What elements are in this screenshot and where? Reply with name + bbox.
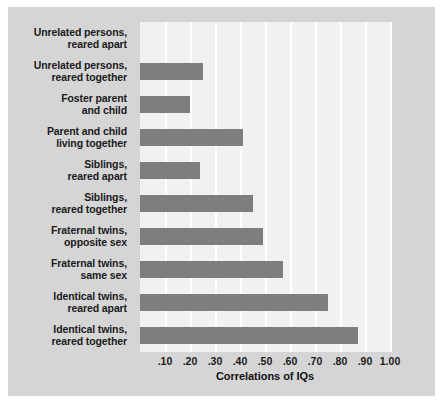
bar-row bbox=[140, 253, 390, 286]
category-label-line: reared together bbox=[51, 72, 127, 84]
category-label-line: Unrelated persons, bbox=[34, 60, 127, 72]
category-label: Fraternal twins,same sex bbox=[8, 253, 133, 286]
category-label-line: opposite sex bbox=[64, 237, 127, 249]
bar bbox=[140, 195, 253, 212]
category-label-line: Identical twins, bbox=[53, 291, 127, 303]
chart-figure: Unrelated persons,reared apartUnrelated … bbox=[8, 7, 435, 396]
bar bbox=[140, 294, 328, 311]
category-label-line: Unrelated persons, bbox=[34, 27, 127, 39]
bar bbox=[140, 63, 203, 80]
x-tick-label: 1.00 bbox=[380, 355, 400, 367]
category-label-line: Fraternal twins, bbox=[51, 258, 127, 270]
category-label: Identical twins,reared apart bbox=[8, 286, 133, 319]
x-tick-label: .90 bbox=[358, 355, 373, 367]
bar bbox=[140, 327, 358, 344]
x-tick-label: .60 bbox=[283, 355, 298, 367]
category-label-line: reared apart bbox=[68, 303, 128, 315]
category-label: Parent and childliving together bbox=[8, 121, 133, 154]
bar-row bbox=[140, 187, 390, 220]
category-label: Siblings,reared together bbox=[8, 187, 133, 220]
x-tick-label: .40 bbox=[233, 355, 248, 367]
bar-row bbox=[140, 220, 390, 253]
x-tick-label: .20 bbox=[183, 355, 198, 367]
category-label-line: reared apart bbox=[68, 171, 128, 183]
category-label: Foster parentand child bbox=[8, 88, 133, 121]
category-axis-labels: Unrelated persons,reared apartUnrelated … bbox=[8, 22, 133, 352]
category-label-line: Fraternal twins, bbox=[51, 225, 127, 237]
category-label: Identical twins,reared together bbox=[8, 319, 133, 352]
x-tick-label: .50 bbox=[258, 355, 273, 367]
x-tick-label: .80 bbox=[333, 355, 348, 367]
bar-row bbox=[140, 286, 390, 319]
category-label-line: Foster parent bbox=[61, 93, 127, 105]
bar-row bbox=[140, 22, 390, 55]
category-label-line: Identical twins, bbox=[53, 324, 127, 336]
x-axis-ticks: .10.20.30.40.50.60.70.80.901.00 bbox=[140, 355, 390, 369]
bar-series bbox=[140, 22, 390, 352]
category-label: Unrelated persons,reared apart bbox=[8, 22, 133, 55]
plot-area bbox=[140, 22, 390, 352]
category-label-line: reared together bbox=[51, 204, 127, 216]
category-label-line: same sex bbox=[81, 270, 128, 282]
bar-row bbox=[140, 55, 390, 88]
category-label-line: Siblings, bbox=[84, 192, 127, 204]
category-label: Siblings,reared apart bbox=[8, 154, 133, 187]
bar bbox=[140, 162, 200, 179]
category-label: Fraternal twins,opposite sex bbox=[8, 220, 133, 253]
category-label: Unrelated persons,reared together bbox=[8, 55, 133, 88]
bar bbox=[140, 96, 190, 113]
bar bbox=[140, 228, 263, 245]
bar-row bbox=[140, 319, 390, 352]
category-label-line: reared apart bbox=[68, 39, 128, 51]
category-label-line: Parent and child bbox=[47, 126, 127, 138]
x-tick-label: .10 bbox=[158, 355, 173, 367]
bar bbox=[140, 129, 243, 146]
x-tick-label: .30 bbox=[208, 355, 223, 367]
category-label-line: living together bbox=[56, 138, 127, 150]
category-label-line: Siblings, bbox=[84, 159, 127, 171]
bar-row bbox=[140, 121, 390, 154]
bar-row bbox=[140, 154, 390, 187]
category-label-line: reared together bbox=[51, 336, 127, 348]
gridline bbox=[390, 22, 392, 352]
bar bbox=[140, 261, 283, 278]
bar-row bbox=[140, 88, 390, 121]
x-axis-title: Correlations of IQs bbox=[140, 370, 390, 382]
category-label-line: and child bbox=[82, 105, 127, 117]
x-tick-label: .70 bbox=[308, 355, 323, 367]
